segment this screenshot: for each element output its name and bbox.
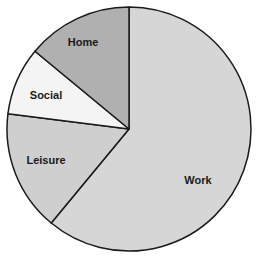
slice-label-home: Home <box>68 36 99 48</box>
slice-label-leisure: Leisure <box>26 154 65 166</box>
slice-label-social: Social <box>30 89 62 101</box>
slice-label-work: Work <box>184 174 212 186</box>
pie-slices <box>7 7 251 251</box>
pie-chart: WorkLeisureSocialHome <box>0 0 256 266</box>
